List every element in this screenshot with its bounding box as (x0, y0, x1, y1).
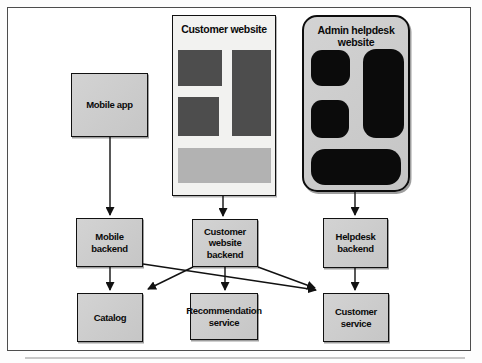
node-helpdesk-backend: Helpdesk backend (323, 218, 388, 268)
node-customer-website-backend: Customer website backend (192, 219, 258, 267)
customer-website-title: Customer website (173, 23, 275, 35)
admin-helpdesk-panel: Admin helpdesk website (302, 15, 410, 192)
admin-helpdesk-title: Admin helpdesk website (304, 24, 408, 48)
node-customer-service-label: Customer service (333, 306, 379, 329)
node-mobile-app-label: Mobile app (86, 99, 133, 111)
node-recommendation-service: Recommendation service (190, 293, 258, 340)
customer-website-panel: Customer website (172, 15, 276, 196)
admin-block-right-tall-icon (363, 49, 404, 138)
node-mobile-app: Mobile app (71, 73, 148, 137)
wireframe-block-right-tall-icon (232, 50, 271, 136)
node-recommendation-service-label: Recommendation service (186, 305, 262, 328)
node-catalog-label: Catalog (94, 312, 127, 324)
figure-page: Customer website Admin helpdesk website … (0, 0, 482, 363)
node-helpdesk-backend-label: Helpdesk backend (333, 231, 379, 254)
wireframe-block-top-left-icon (178, 50, 222, 86)
admin-block-mid-left-icon (311, 100, 349, 138)
wireframe-block-mid-left-icon (178, 97, 219, 136)
node-mobile-backend: Mobile backend (76, 218, 143, 267)
admin-block-top-left-icon (311, 50, 350, 86)
node-mobile-backend-label: Mobile backend (80, 231, 139, 254)
page-edge-artifact (25, 357, 465, 359)
wireframe-block-bottom-banner-icon (178, 148, 271, 183)
node-customer-service: Customer service (323, 293, 389, 342)
node-customer-website-backend-label: Customer website backend (201, 226, 249, 261)
admin-block-bottom-banner-icon (311, 149, 401, 185)
node-catalog: Catalog (77, 293, 143, 342)
